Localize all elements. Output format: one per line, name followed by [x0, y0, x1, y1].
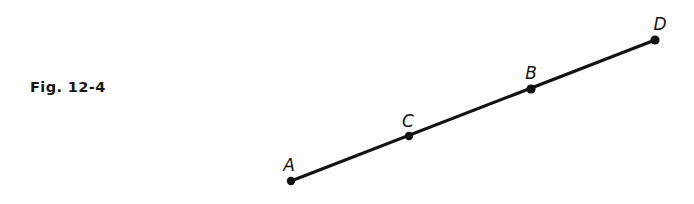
line-diagram: A C B D	[0, 0, 694, 204]
point-a-dot	[287, 177, 295, 185]
point-c-label: C	[402, 111, 414, 131]
point-d-dot	[650, 35, 659, 44]
point-c-dot	[405, 132, 413, 140]
segment-ad-line	[291, 40, 655, 181]
point-d-label: D	[653, 14, 666, 34]
point-a-label: A	[282, 155, 295, 175]
point-b-dot	[526, 84, 535, 93]
point-b-label: B	[525, 63, 537, 83]
figure-container: Fig. 12-4 A C B D	[0, 0, 694, 204]
